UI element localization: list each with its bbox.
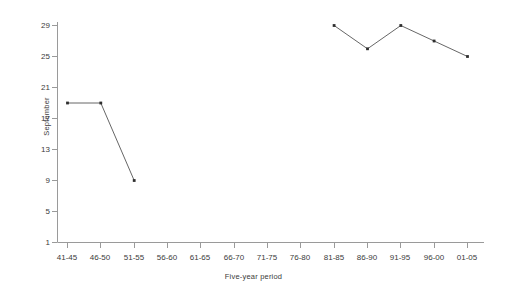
data-point-marker xyxy=(66,102,69,105)
data-series-september xyxy=(66,24,469,182)
data-point-marker xyxy=(366,47,369,50)
data-point-marker xyxy=(99,102,102,105)
line-chart: September 1 5 9 13 17 21 25 29 41-45 46-… xyxy=(0,0,507,295)
y-axis-ticks xyxy=(52,26,58,243)
series-line xyxy=(68,103,135,181)
data-point-marker xyxy=(399,24,402,27)
x-axis-ticks xyxy=(68,243,468,249)
plot-area xyxy=(0,0,507,295)
series-line xyxy=(334,26,467,57)
data-point-marker xyxy=(466,55,469,58)
axis-lines xyxy=(58,22,485,243)
data-point-marker xyxy=(133,179,136,182)
data-point-marker xyxy=(433,40,436,43)
data-point-marker xyxy=(333,24,336,27)
